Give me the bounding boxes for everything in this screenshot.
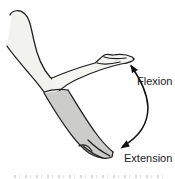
extension-label: Extension [124, 152, 172, 165]
arrow-head-up-icon [131, 65, 139, 74]
arrow-head-down-icon [121, 140, 130, 148]
flexion-label: Flexion [137, 75, 172, 88]
upper-arm [7, 11, 58, 92]
figure-elbow-flexion-extension: Flexion Extension [0, 0, 175, 179]
forearm-extended [44, 89, 113, 158]
cropped-caption-fragment [14, 175, 164, 178]
forearm-extended-fill [44, 90, 113, 158]
upper-arm-fill [7, 11, 58, 92]
forearm-flexed [52, 54, 134, 93]
